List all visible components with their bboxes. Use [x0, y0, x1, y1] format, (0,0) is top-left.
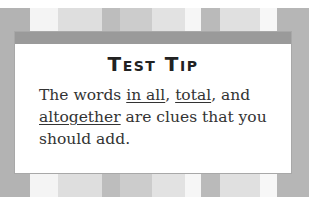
keyword-in-all: in all [126, 86, 165, 104]
body-text: , [165, 86, 175, 104]
tip-title: Test Tip [15, 52, 291, 76]
card-header-bar [15, 32, 291, 44]
body-text: , and [211, 86, 250, 104]
tip-body: The words in all, total, and altogether … [39, 84, 275, 150]
keyword-total: total [175, 86, 211, 104]
tip-card: Test Tip The words in all, total, and al… [15, 32, 291, 173]
keyword-altogether: altogether [39, 108, 121, 126]
body-text: The words [39, 86, 126, 104]
